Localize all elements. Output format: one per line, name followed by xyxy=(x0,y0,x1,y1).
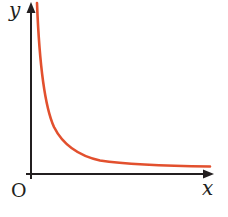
chart: y O x xyxy=(0,0,228,217)
x-axis-label: x xyxy=(202,176,213,200)
origin-label: O xyxy=(11,179,27,201)
y-axis-arrow-icon xyxy=(27,2,36,13)
curve-series xyxy=(37,3,210,167)
y-axis-label: y xyxy=(8,0,21,22)
